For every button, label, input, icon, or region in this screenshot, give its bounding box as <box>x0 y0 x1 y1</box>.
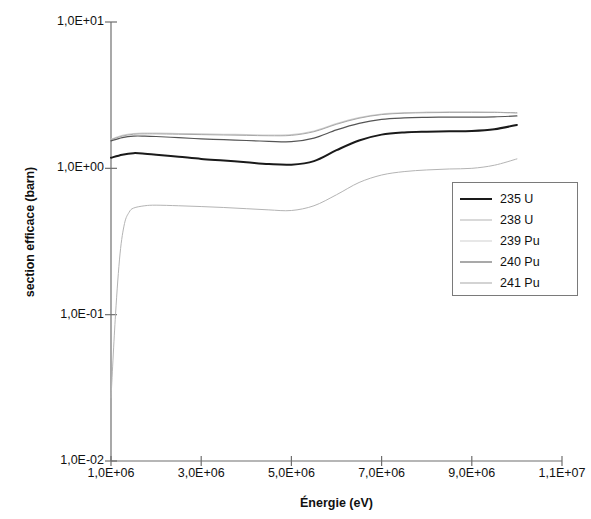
legend-line-swatch <box>460 215 492 225</box>
legend-item[interactable]: 235 U <box>453 188 577 209</box>
y-tick-label: 1,0E+01 <box>18 14 104 28</box>
legend-line-swatch <box>460 194 492 204</box>
x-tick-label: 3,0E+06 <box>157 466 245 480</box>
legend-item-label: 240 Pu <box>500 255 540 269</box>
y-tick-label: 1,0E+00 <box>18 160 104 174</box>
legend-item[interactable]: 238 U <box>453 209 577 230</box>
legend-item-label: 238 U <box>500 213 533 227</box>
chart-figure: section efficace (barn) Énergie (eV) 1,0… <box>0 0 591 519</box>
x-tick-label: 7,0E+06 <box>338 466 426 480</box>
x-tick-label: 9,0E+06 <box>428 466 516 480</box>
x-tick-label: 1,1E+07 <box>518 466 591 480</box>
x-axis-title: Énergie (eV) <box>111 496 562 510</box>
legend-swatch-line <box>460 198 492 200</box>
y-tick-label: 1,0E-02 <box>18 453 104 467</box>
legend-item[interactable]: 239 Pu <box>453 230 577 251</box>
legend-swatch-line <box>460 240 492 241</box>
legend-item[interactable]: 240 Pu <box>453 251 577 272</box>
legend-swatch-line <box>460 261 492 262</box>
series-line <box>111 112 517 139</box>
x-tick-label: 5,0E+06 <box>247 466 335 480</box>
legend-item-label: 239 Pu <box>500 234 540 248</box>
legend-line-swatch <box>460 257 492 267</box>
legend-item-label: 235 U <box>500 192 533 206</box>
legend-line-swatch <box>460 236 492 246</box>
legend-item-label: 241 Pu <box>500 276 540 290</box>
legend-swatch-line <box>460 282 492 283</box>
legend-swatch-line <box>460 219 492 220</box>
legend-item[interactable]: 241 Pu <box>453 272 577 293</box>
chart-legend: 235 U238 U239 Pu240 Pu241 Pu <box>452 182 578 296</box>
series-line <box>111 116 517 142</box>
y-tick-label: 1,0E-01 <box>18 307 104 321</box>
legend-line-swatch <box>460 278 492 288</box>
x-tick-label: 1,0E+06 <box>67 466 155 480</box>
